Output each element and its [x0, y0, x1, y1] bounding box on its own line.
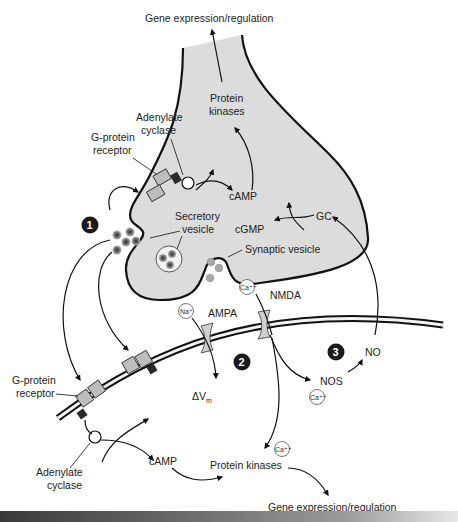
protein-kinases-bottom-label: Protein kinases [210, 459, 282, 471]
adenylate-cyclase-top-label-2: cyclase [141, 124, 176, 136]
ca-ion-pk-label: Ca⁺⁺ [275, 446, 292, 453]
step-marker-3: 3 [328, 344, 345, 361]
delta-vm-label: ΔVm [192, 390, 212, 404]
synaptic-vesicles [206, 258, 223, 282]
ca-ion-nos-label: Ca⁺⁺ [310, 394, 327, 401]
synaptic-signaling-diagram: Gene expression/regulation Protein kinas… [0, 0, 458, 522]
no-label: NO [365, 346, 381, 358]
adenylate-cyclase-bottom-label-1: Adenylate [36, 466, 83, 478]
nos-label: NOS [320, 375, 343, 387]
gc-label: GC [316, 210, 332, 222]
camp-top-label: cAMP [229, 190, 257, 202]
bottom-border-bar [0, 511, 458, 522]
adenylate-cyclase-bottom-label-2: cyclase [47, 479, 82, 491]
adenylate-cyclase-top-label-1: Adenylate [136, 111, 183, 123]
cgmp-label: cGMP [235, 223, 264, 235]
camp-bottom-label: cAMP [149, 455, 177, 467]
na-ion-label: Na⁺ [180, 308, 193, 315]
svg-text:1: 1 [87, 219, 93, 231]
postsynaptic-membrane [58, 318, 443, 418]
secretory-vesicle-label-2: vesicle [182, 223, 214, 235]
g-protein-receptor-top-label-2: receptor [93, 144, 132, 156]
protein-kinases-top-label-1: Protein [210, 92, 243, 104]
nmda-label: NMDA [270, 289, 301, 301]
ca-ion-nmda-label: Ca⁺⁺ [240, 284, 257, 291]
step-marker-2: 2 [234, 354, 251, 371]
g-protein-receptor-bottom-label-2: receptor [16, 387, 55, 399]
secretory-vesicle [156, 246, 182, 272]
g-protein-receptor-top-label-1: G-protein [91, 131, 135, 143]
synaptic-vesicle-label: Synaptic vesicle [245, 243, 320, 255]
protein-kinases-top-label-2: kinases [209, 105, 245, 117]
svg-text:2: 2 [239, 356, 245, 368]
gene-expression-top-label: Gene expression/regulation [145, 12, 274, 24]
svg-text:3: 3 [333, 346, 339, 358]
g-protein-receptor-bottom [76, 350, 158, 443]
ampa-label: AMPA [208, 307, 237, 319]
step-marker-1: 1 [82, 217, 99, 234]
g-protein-receptor-bottom-label-1: G-protein [12, 374, 56, 386]
secretory-vesicle-label-1: Secretory [175, 210, 221, 222]
